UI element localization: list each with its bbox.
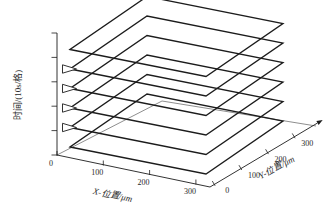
y-tick-label: 300 bbox=[301, 139, 313, 148]
x-axis-label: X-位置/μm bbox=[91, 186, 134, 204]
base-back-edge-right bbox=[162, 101, 316, 126]
x-tick-label: 100 bbox=[91, 168, 103, 177]
z-axis-label: 时间/(10s/格) bbox=[12, 70, 23, 121]
figure-3d-time-position-plot: 01002003000100200300 X-位置/μm Y-位置/μm 时间/… bbox=[0, 0, 335, 214]
y-axis-arrowhead-icon bbox=[316, 120, 322, 125]
trajectory-loops bbox=[70, 0, 283, 174]
plot-canvas: 01002003000100200300 X-位置/μm Y-位置/μm 时间/… bbox=[0, 0, 335, 214]
x-tick-label: 200 bbox=[138, 178, 150, 187]
y-tick-label: 0 bbox=[225, 186, 229, 195]
x-tick-label: 0 bbox=[49, 159, 53, 168]
loop-start-markers bbox=[63, 65, 77, 132]
x-tick-label: 300 bbox=[184, 187, 196, 196]
